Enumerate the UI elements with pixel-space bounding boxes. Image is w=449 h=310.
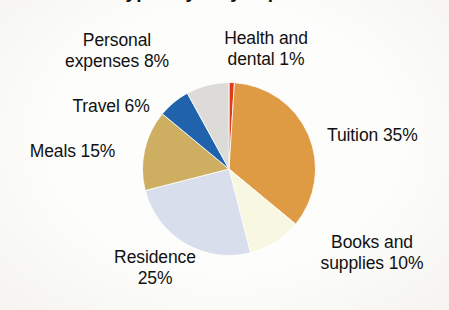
slice-label-residence: Residence 25%: [90, 247, 220, 289]
slice-label-personal-expenses: Personal expenses 8%: [42, 30, 192, 72]
slice-label-travel: Travel 6%: [46, 96, 176, 117]
pie-chart-figure: Typical yearly expenses Personal expense…: [0, 0, 449, 310]
slice-label-tuition: Tuition 35%: [327, 125, 449, 146]
slice-label-books-and-supplies: Books and supplies 10%: [295, 232, 449, 274]
slice-label-meals: Meals 15%: [10, 141, 135, 162]
slice-label-health-and-dental: Health and dental 1%: [196, 28, 336, 70]
page-title: Typical yearly expenses: [0, 0, 449, 3]
